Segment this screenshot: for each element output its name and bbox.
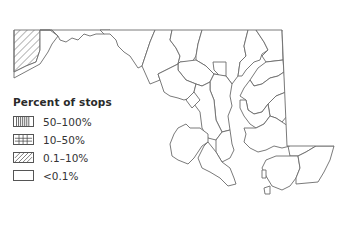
legend-label: 0.1–10% [43, 152, 88, 164]
county-somerset [262, 156, 300, 190]
legend-label: 50–100% [43, 116, 92, 128]
empty-swatch-icon [13, 170, 34, 181]
island [262, 170, 266, 178]
legend-item-0-1-10: 0.1–10% [13, 150, 112, 165]
island [264, 186, 270, 194]
map-legend: Percent of stops 50–100% 10–50% 0.1–10% [13, 96, 112, 186]
legend-label: <0.1% [43, 170, 78, 182]
legend-title: Percent of stops [13, 96, 112, 108]
state-east-border [282, 30, 334, 146]
diagonal-lines-swatch-icon [13, 152, 34, 163]
legend-label: 10–50% [43, 134, 85, 146]
legend-item-10-50: 10–50% [13, 132, 112, 147]
legend-item-50-100: 50–100% [13, 114, 112, 129]
grid-swatch-icon [13, 134, 34, 145]
vertical-lines-swatch-icon [13, 116, 34, 127]
legend-item-under-0-1: <0.1% [13, 168, 112, 183]
